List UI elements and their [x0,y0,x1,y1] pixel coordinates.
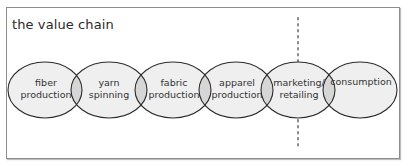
stage-label-yarn-spinning: yarnspinning [89,77,129,101]
stage-label-consumption: consumption [330,76,392,88]
stage-label-marketing-retailing: marketing/retailing [273,77,325,101]
stage-label-fabric-production: fabricproduction [148,77,199,101]
stage-label-fiber-production: fiberproduction [20,77,71,101]
stage-label-apparel-production: apparelproduction [211,77,262,101]
